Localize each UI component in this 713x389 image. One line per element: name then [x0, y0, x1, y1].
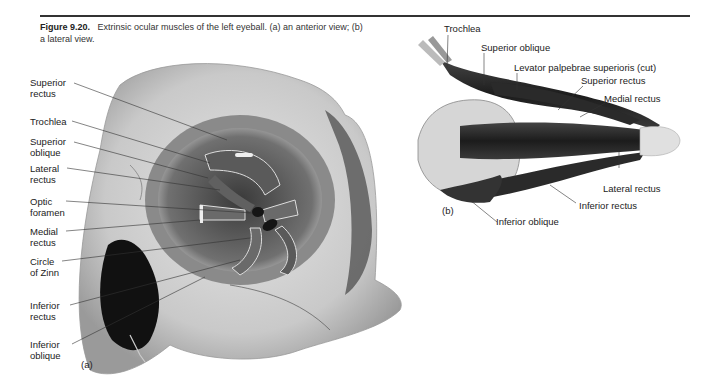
- label-inferior-rectus-b: Inferior rectus: [579, 200, 637, 211]
- panel-b-label: (b): [442, 205, 454, 216]
- label-inferior-oblique-a: Inferior oblique: [30, 339, 61, 361]
- label-lateral-rectus-b: Lateral rectus: [603, 183, 661, 194]
- label-medial-rectus-b: Medial rectus: [604, 93, 661, 104]
- label-superior-rectus-b: Superior rectus: [581, 75, 645, 86]
- anatomy-illustration: [0, 0, 713, 389]
- panel-a-label: (a): [81, 359, 93, 370]
- label-medial-rectus-a: Medial rectus: [30, 226, 58, 248]
- label-superior-oblique-b: Superior oblique: [481, 42, 550, 53]
- label-optic-foramen-a: Optic foramen: [30, 196, 65, 218]
- label-inferior-rectus-a: Inferior rectus: [30, 300, 60, 322]
- label-trochlea-b: Trochlea: [444, 23, 481, 34]
- skull-anterior-view: [79, 64, 401, 374]
- label-inferior-oblique-b: Inferior oblique: [496, 216, 559, 227]
- label-superior-oblique-a: Superior oblique: [30, 136, 66, 158]
- label-lateral-rectus-a: Lateral rectus: [30, 163, 59, 185]
- label-superior-rectus-a: Superior rectus: [30, 77, 66, 99]
- label-levator-palpebrae-b: Levator palpebrae superioris (cut): [514, 62, 656, 73]
- label-circle-of-zinn-a: Circle of Zinn: [30, 256, 59, 278]
- label-trochlea-a: Trochlea: [30, 116, 67, 127]
